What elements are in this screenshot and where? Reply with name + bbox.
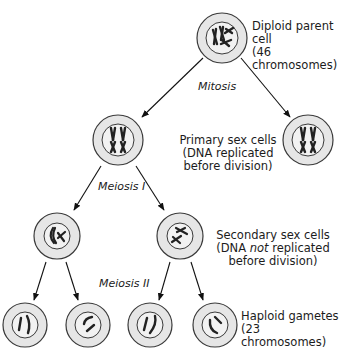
cell-gamete-2 [66,303,110,347]
cell-primary-left [93,115,143,165]
arrow-secondary-right-to-gamete-4 [191,262,203,300]
label-secondary-sex-cells: Secondary sex cells (DNA not replicated … [208,229,338,268]
label-line: (46 chromosomes) [252,46,340,72]
arrow-primary-to-secondary-left [74,166,101,210]
label-primary-sex-cells: Primary sex cells (DNA replicated before… [174,134,282,173]
cell-gamete-1 [3,303,47,347]
cell-secondary-left [34,213,80,259]
cell-secondary-right [157,213,203,259]
emphasis-not: not [250,241,269,255]
label-line: (23 chromosomes) [241,323,340,349]
arrow-secondary-left-to-gamete-2 [66,262,78,300]
label-line: before division) [174,160,282,173]
arrow-secondary-right-to-gamete-3 [159,262,170,300]
stage-meiosis-2: Meiosis II [99,277,150,290]
arrow-parent-to-primary-left [142,58,203,117]
cell-gamete-4 [193,303,237,347]
cell-gamete-3 [128,303,172,347]
label-line: Diploid parent cell [252,20,340,46]
arrow-secondary-left-to-gamete-1 [34,262,46,300]
label-haploid-gametes: Haploid gametes (23 chromosomes) [241,310,340,349]
cell-parent [197,13,247,63]
label-line: before division) [208,255,338,268]
cell-primary-right [283,115,333,165]
stage-mitosis: Mitosis [198,80,236,93]
stage-meiosis-1: Meiosis I [98,180,145,193]
label-diploid-parent: Diploid parent cell (46 chromosomes) [252,20,340,72]
